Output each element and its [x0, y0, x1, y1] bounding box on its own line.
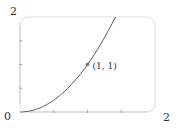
- annotations: (1, 1): [86, 61, 117, 71]
- y-max-tick-label: 2: [10, 5, 17, 18]
- x-max-tick-label: 2: [163, 111, 170, 124]
- chart: (1, 1) 0 2 2: [0, 0, 188, 130]
- origin-tick-label: 0: [4, 110, 11, 123]
- point-label: (1, 1): [93, 61, 117, 71]
- point-marker: [86, 63, 90, 67]
- axis-ticks: [19, 41, 121, 113]
